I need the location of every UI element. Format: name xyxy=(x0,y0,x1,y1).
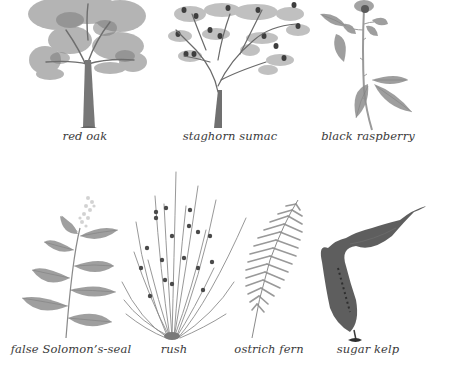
specimen-plate: red oak xyxy=(0,0,451,375)
specimen-sugar-kelp xyxy=(0,0,451,375)
kelp-blade-icon xyxy=(0,0,451,375)
caption-sugar-kelp: sugar kelp xyxy=(337,342,400,356)
